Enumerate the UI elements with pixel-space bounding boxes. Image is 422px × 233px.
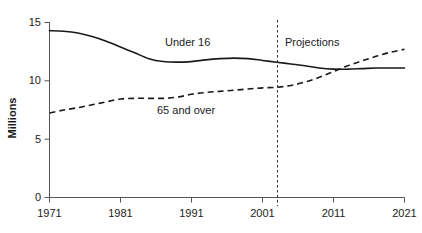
y-tick-label-0: 0 [26,192,41,203]
x-tick-label-2011: 2011 [317,208,350,219]
x-tick-label-1991: 1991 [175,208,208,219]
x-tick-label-1981: 1981 [104,208,137,219]
annotation-65-and-over: 65 and over [157,105,215,116]
series-line-under-16 [50,31,405,70]
chart-plot-area: Millions [0,0,422,233]
population-projection-chart: Millions 15 10 5 0 1971 1981 1991 2001 2… [0,0,422,233]
annotation-under-16: Under 16 [165,37,210,48]
y-tick-label-15: 15 [26,17,41,28]
y-axis-title: Millions [6,98,18,139]
x-tick-label-2021: 2021 [388,208,421,219]
annotation-projections: Projections [285,37,339,48]
x-tick-label-2001: 2001 [246,208,279,219]
y-tick-label-5: 5 [26,134,41,145]
x-tick-label-1971: 1971 [33,208,66,219]
y-tick-label-10: 10 [26,75,41,86]
